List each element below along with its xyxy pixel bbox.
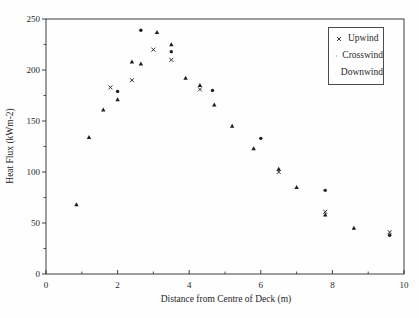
- legend-label-upwind: Upwind: [348, 34, 379, 44]
- data-point-upwind: [198, 87, 202, 91]
- y-tick-label: 200: [27, 65, 41, 75]
- data-point-downwind: [230, 124, 234, 128]
- x-tick-label: 8: [330, 280, 335, 290]
- data-point-crosswind: [324, 189, 327, 192]
- x-tick-label: 4: [187, 280, 192, 290]
- x-axis-title: Distance from Centre of Deck (m): [161, 294, 292, 305]
- data-point-downwind: [251, 146, 255, 150]
- data-point-crosswind: [211, 89, 214, 92]
- y-tick-label: 50: [31, 218, 41, 228]
- y-tick-label: 100: [27, 167, 41, 177]
- legend-item-downwind: Downwind: [335, 67, 383, 79]
- data-point-downwind: [87, 135, 91, 139]
- data-point-downwind: [352, 226, 356, 230]
- legend-label-downwind: Downwind: [341, 68, 383, 78]
- y-axis-title: Heat Flux (kWm-2): [5, 108, 16, 183]
- data-point-downwind: [130, 60, 134, 64]
- x-tick-label: 0: [44, 280, 49, 290]
- legend-marker-glyph: [337, 37, 341, 41]
- data-point-crosswind: [170, 50, 173, 53]
- data-point-downwind: [74, 202, 78, 206]
- x-tick-label: 2: [115, 280, 120, 290]
- y-tick-label: 150: [27, 116, 41, 126]
- heat-flux-chart: 0246810050100150200250 Distance from Cen…: [0, 0, 419, 318]
- downwind-marker-icon: [335, 69, 336, 77]
- data-point-downwind: [294, 185, 298, 189]
- data-point-upwind: [151, 48, 155, 52]
- data-point-downwind: [212, 102, 216, 106]
- data-point-upwind: [169, 58, 173, 62]
- legend-item-upwind: Upwind: [335, 33, 383, 45]
- legend-label-crosswind: Crosswind: [342, 51, 383, 61]
- data-point-downwind: [139, 62, 143, 66]
- data-point-upwind: [108, 85, 112, 89]
- legend-item-crosswind: Crosswind: [335, 50, 383, 62]
- data-point-crosswind: [139, 29, 142, 32]
- data-point-downwind: [183, 76, 187, 80]
- x-tick-label: 10: [400, 280, 410, 290]
- data-point-downwind: [101, 107, 105, 111]
- data-point-downwind: [277, 167, 281, 171]
- y-tick-label: 0: [36, 269, 41, 279]
- data-point-downwind: [155, 30, 159, 34]
- data-point-downwind: [115, 97, 119, 101]
- data-point-downwind: [198, 83, 202, 87]
- data-point-crosswind: [116, 90, 119, 93]
- upwind-marker-icon: [335, 35, 343, 43]
- data-point-crosswind: [259, 137, 262, 140]
- legend-marker-glyph: [336, 56, 337, 57]
- x-tick-label: 6: [259, 280, 264, 290]
- data-point-crosswind: [388, 234, 391, 237]
- y-tick-label: 250: [27, 14, 41, 24]
- crosswind-marker-icon: [335, 52, 337, 60]
- legend: UpwindCrosswindDownwind: [328, 27, 384, 85]
- data-point-downwind: [169, 42, 173, 46]
- data-point-upwind: [130, 78, 134, 82]
